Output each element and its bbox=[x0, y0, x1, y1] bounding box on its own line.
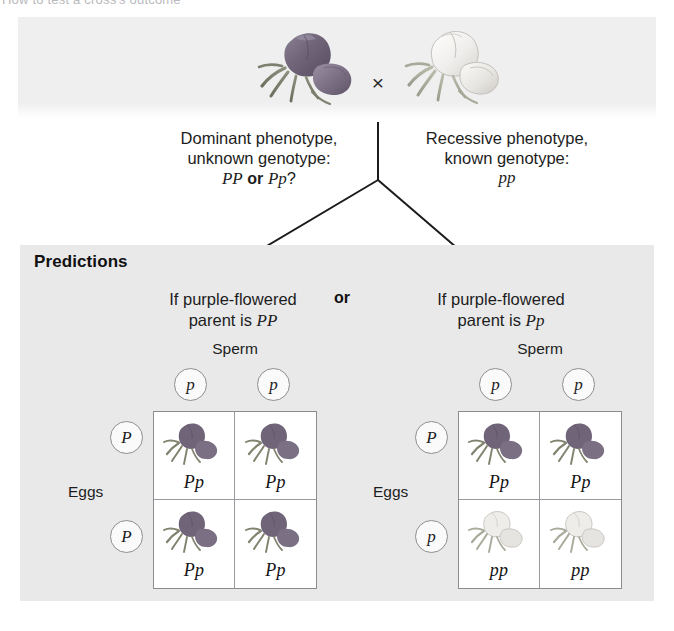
prediction-header-pp-heterozygous: If purple-flowered parent is Pp bbox=[396, 289, 606, 331]
dominant-parent-genotype-connector: or bbox=[247, 170, 263, 187]
predictions-or-label: or bbox=[318, 289, 366, 307]
sperm-label-right: Sperm bbox=[458, 340, 622, 358]
eggs-label-right: Eggs bbox=[373, 483, 408, 501]
prediction-header-left-genotype: PP bbox=[257, 311, 278, 330]
dominant-parent-genotype-line: PP or Pp? bbox=[148, 168, 370, 189]
white-flower-icon bbox=[468, 507, 530, 559]
prediction-header-pp-homozygous: If purple-flowered parent is PP bbox=[128, 289, 338, 331]
egg-gamete-right-2: p bbox=[415, 520, 448, 553]
recessive-parent-genotype: pp bbox=[392, 168, 622, 188]
sperm-label-left: Sperm bbox=[153, 340, 317, 358]
recessive-parent-caption-line1: Recessive phenotype, bbox=[392, 128, 622, 148]
punnett-cell-genotype: pp bbox=[571, 560, 589, 581]
punnett-cell: Pp bbox=[154, 412, 235, 500]
dominant-parent-genotype-a: PP bbox=[222, 169, 243, 188]
purple-flower-icon bbox=[468, 419, 530, 471]
recessive-parent-caption-line2: known genotype: bbox=[392, 148, 622, 168]
sperm-gamete-left-2: p bbox=[257, 368, 290, 401]
punnett-cell-genotype: Pp bbox=[265, 472, 285, 493]
sperm-gamete-left-1: p bbox=[174, 368, 207, 401]
prediction-header-left-line2: parent is PP bbox=[128, 310, 338, 332]
cross-symbol: × bbox=[366, 70, 390, 96]
punnett-cell: pp bbox=[540, 500, 621, 588]
white-flower-icon bbox=[550, 507, 612, 559]
egg-gamete-left-1: P bbox=[110, 421, 143, 454]
punnett-cell-genotype: Pp bbox=[265, 560, 285, 581]
purple-flower-icon bbox=[163, 507, 225, 559]
punnett-cell: Pp bbox=[235, 412, 316, 500]
eggs-label-left: Eggs bbox=[68, 483, 103, 501]
prediction-header-right-prefix: parent is bbox=[458, 311, 521, 329]
punnett-cell-genotype: pp bbox=[490, 560, 508, 581]
prediction-header-right-line1: If purple-flowered bbox=[396, 289, 606, 310]
purple-flower-illustration bbox=[252, 30, 368, 108]
punnett-cell: Pp bbox=[154, 500, 235, 588]
purple-flower-icon bbox=[163, 419, 225, 471]
prediction-header-left-line1: If purple-flowered bbox=[128, 289, 338, 310]
sperm-gamete-right-1: p bbox=[479, 368, 512, 401]
punnett-square-right: Pp Pp bbox=[458, 411, 622, 589]
prediction-header-right-line2: parent is Pp bbox=[396, 310, 606, 332]
purple-flower-icon bbox=[550, 419, 612, 471]
punnett-cell: Pp bbox=[540, 412, 621, 500]
recessive-parent-caption: Recessive phenotype, known genotype: pp bbox=[392, 128, 622, 188]
dominant-parent-genotype-b: Pp bbox=[268, 169, 287, 188]
punnett-cell-genotype: Pp bbox=[184, 560, 204, 581]
cropped-top-caption: How to test a cross's outcome bbox=[0, 0, 674, 9]
white-flower-illustration bbox=[400, 28, 516, 108]
punnett-cell-genotype: Pp bbox=[184, 472, 204, 493]
punnett-cell-genotype: Pp bbox=[570, 472, 590, 493]
prediction-header-right-genotype: Pp bbox=[526, 311, 545, 330]
dominant-parent-question-mark: ? bbox=[287, 169, 296, 187]
purple-flower-icon bbox=[245, 507, 307, 559]
punnett-cell-genotype: Pp bbox=[489, 472, 509, 493]
sperm-gamete-right-2: p bbox=[562, 368, 595, 401]
punnett-cell: pp bbox=[459, 500, 540, 588]
dominant-parent-caption-line2: unknown genotype: bbox=[148, 148, 370, 168]
testcross-punnett-figure: How to test a cross's outcome bbox=[0, 0, 674, 631]
punnett-cell: Pp bbox=[235, 500, 316, 588]
punnett-cell: Pp bbox=[459, 412, 540, 500]
prediction-header-left-prefix: parent is bbox=[189, 311, 252, 329]
purple-flower-icon bbox=[245, 419, 307, 471]
predictions-title: Predictions bbox=[34, 252, 128, 272]
dominant-parent-caption: Dominant phenotype, unknown genotype: PP… bbox=[148, 128, 370, 189]
cropped-top-caption-text: How to test a cross's outcome bbox=[2, 0, 674, 6]
dominant-parent-caption-line1: Dominant phenotype, bbox=[148, 128, 370, 148]
punnett-square-left: Pp Pp bbox=[153, 411, 317, 589]
egg-gamete-left-2: P bbox=[110, 520, 143, 553]
egg-gamete-right-1: P bbox=[415, 421, 448, 454]
